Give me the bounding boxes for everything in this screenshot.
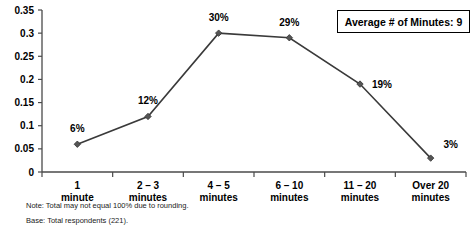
y-axis-tick-label: 0.05 xyxy=(15,143,35,154)
x-axis-tick-label: Over 20 xyxy=(412,180,449,191)
y-axis-tick-label: 0.3 xyxy=(20,28,34,39)
data-point-label: 3% xyxy=(443,139,458,150)
x-axis-tick-marks xyxy=(42,172,466,177)
data-point-label: 12% xyxy=(138,95,158,106)
data-point-label: 29% xyxy=(279,17,299,28)
average-minutes-callout: Average # of Minutes: 9 xyxy=(337,10,470,33)
footnote-base: Base: Total respondents (221). xyxy=(26,217,456,225)
footnote-note: Note: Total may not equal 100% due to ro… xyxy=(26,202,456,210)
y-axis-tick-labels: 00.050.10.150.20.250.30.35 xyxy=(15,5,35,178)
y-axis-tick-label: 0.2 xyxy=(20,74,34,85)
footnotes-block: Note: Total may not equal 100% due to ro… xyxy=(26,202,456,233)
x-axis-tick-label: 1 xyxy=(75,180,81,191)
y-axis-tick-label: 0 xyxy=(28,167,34,178)
x-axis-tick-labels: 1minute2 – 3minutes4 – 5minutes6 – 10min… xyxy=(61,180,450,203)
x-axis-tick-label: 4 – 5 xyxy=(208,180,231,191)
y-axis-tick-label: 0.15 xyxy=(15,97,35,108)
y-axis-tick-label: 0.1 xyxy=(20,120,34,131)
series-data-markers xyxy=(74,30,434,161)
x-axis-tick-label: 11 – 20 xyxy=(344,180,377,191)
series-line-path xyxy=(77,33,430,158)
x-axis-tick-label: 2 – 3 xyxy=(137,180,160,191)
y-axis-tick-label: 0.35 xyxy=(15,5,35,16)
y-axis-tick-label: 0.25 xyxy=(15,51,35,62)
average-minutes-label: Average # of Minutes: 9 xyxy=(345,16,462,28)
data-point-label: 30% xyxy=(209,12,229,23)
x-axis-tick-label: 6 – 10 xyxy=(275,180,303,191)
chart-page: 00.050.10.150.20.250.30.35 1minute2 – 3m… xyxy=(0,0,475,238)
data-point-label: 6% xyxy=(70,123,85,134)
data-point-marker xyxy=(74,141,80,147)
data-point-label: 19% xyxy=(372,79,392,90)
